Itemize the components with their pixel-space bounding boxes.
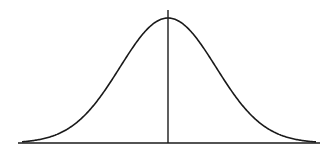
normal-curve <box>22 18 316 142</box>
bell-curve-diagram <box>0 0 334 150</box>
